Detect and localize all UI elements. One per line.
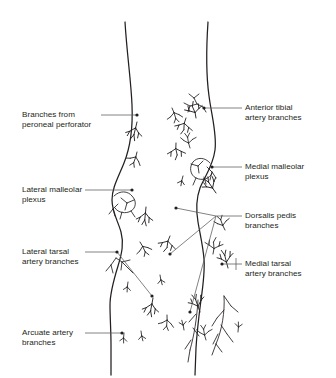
label-dorsalis-pedis-branches: Dorsalis pedisbranches [245, 211, 296, 231]
leader-medial-tarsal [222, 258, 242, 270]
right-leg-outline [195, 22, 215, 375]
leader-lateral-tarsal-b [117, 252, 152, 296]
label-lateral-tarsal-line1: Lateral tarsal [22, 247, 69, 256]
label-peroneal-perforator: Branches fromperoneal perforator [22, 110, 91, 130]
label-medial-tarsal-line2: artery branches [245, 269, 302, 278]
leader-dots-left [115, 113, 153, 334]
label-arcuate-artery: Arcuate arterybranches [22, 328, 73, 348]
dorsalis-pedis-long-branch [212, 296, 238, 355]
label-medial-tarsal-line1: Medial tarsal [245, 259, 291, 268]
label-medial-malleolar-line2: plexus [245, 172, 269, 181]
label-peroneal-perforator-line2: peroneal perforator [22, 120, 91, 129]
label-anterior-tibial-line1: Anterior tibial [245, 103, 293, 112]
label-medial-malleolar-plexus: Medial malleolarplexus [245, 162, 304, 182]
label-lateral-malleolar-plexus: Lateral malleolarplexus [22, 185, 82, 205]
label-dorsalis-pedis-line1: Dorsalis pedis [245, 211, 296, 220]
leader-lines-right [170, 108, 242, 312]
anterior-tibial-branch-tuft [184, 94, 206, 112]
leader-dorsalis-pedis-a [176, 208, 216, 216]
lateral-tarsal-cluster [106, 258, 133, 273]
label-lateral-tarsal-artery: Lateral tarsalartery branches [22, 247, 79, 267]
label-lateral-malleolar-line1: Lateral malleolar [22, 185, 82, 194]
label-anterior-tibial-artery: Anterior tibialartery branches [245, 103, 302, 123]
label-medial-tarsal-artery: Medial tarsalartery branches [245, 259, 302, 279]
label-lateral-tarsal-line2: artery branches [22, 257, 79, 266]
right-foot-arterial-tufts [179, 94, 243, 362]
label-arcuate-artery-line1: Arcuate artery [22, 328, 73, 337]
label-arcuate-artery-line2: branches [22, 338, 55, 347]
label-dorsalis-pedis-line2: branches [245, 221, 278, 230]
label-peroneal-perforator-line1: Branches from [22, 110, 75, 119]
leader-dorsalis-pedis-b [170, 216, 216, 254]
label-anterior-tibial-line2: artery branches [245, 113, 302, 122]
label-medial-malleolar-line1: Medial malleolar [245, 162, 304, 171]
label-lateral-malleolar-line2: plexus [22, 195, 46, 204]
